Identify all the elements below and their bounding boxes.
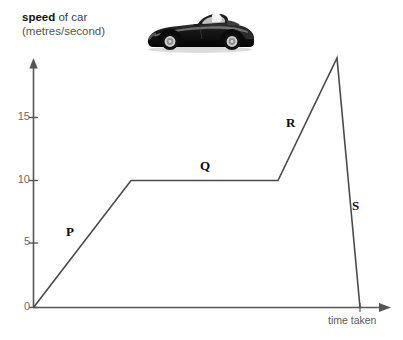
chart-plot-area (0, 0, 403, 340)
x-axis-arrowhead (379, 303, 391, 312)
speed-time-graph-figure: speed of car (metres/second) (0, 0, 403, 340)
speed-time-line (34, 58, 361, 308)
y-axis-arrowhead (29, 58, 37, 69)
